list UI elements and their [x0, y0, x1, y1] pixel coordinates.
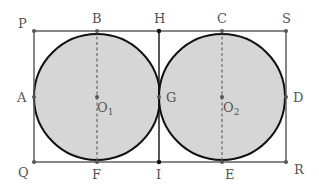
label-c: C — [217, 11, 227, 26]
label-e: E — [225, 167, 235, 182]
point-a — [32, 95, 36, 99]
point-h — [157, 29, 161, 33]
point-e — [220, 160, 224, 164]
label-o1-main: O — [97, 100, 108, 115]
point-r — [284, 160, 288, 164]
label-o2-main: O — [223, 100, 234, 115]
label-o2-sub: 2 — [234, 107, 240, 117]
point-d — [284, 95, 288, 99]
label-a: A — [16, 90, 27, 105]
label-h: H — [154, 11, 165, 26]
point-o2 — [220, 95, 224, 99]
label-g: G — [166, 90, 176, 105]
point-b — [95, 29, 99, 33]
point-g — [157, 95, 161, 99]
point-c — [220, 29, 224, 33]
label-b: B — [92, 11, 102, 26]
label-s: S — [282, 11, 291, 26]
point-f — [95, 160, 99, 164]
point-o1 — [95, 95, 99, 99]
label-f: F — [92, 167, 101, 182]
label-d: D — [293, 90, 303, 105]
label-p: P — [18, 16, 27, 31]
point-i — [157, 160, 161, 164]
label-i: I — [156, 167, 161, 182]
label-o1-sub: 1 — [108, 107, 114, 117]
point-q — [32, 160, 36, 164]
label-q: Q — [18, 165, 29, 180]
label-r: R — [294, 162, 305, 177]
point-s — [284, 29, 288, 33]
geometry-diagram: P B H C S A O1 G O2 D Q F I E R — [0, 0, 319, 193]
point-p — [32, 29, 36, 33]
